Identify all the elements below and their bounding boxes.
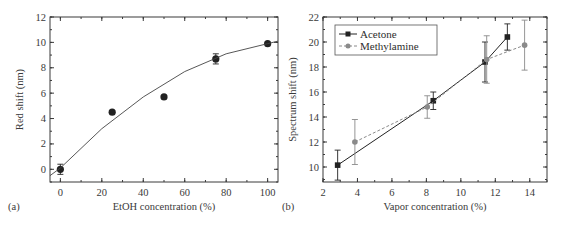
data-point-circle: [352, 139, 358, 145]
y-tick-label: 22: [309, 12, 320, 23]
x-tick-label: 100: [260, 187, 276, 198]
panel-label: (b): [282, 201, 295, 213]
data-point-circle: [424, 104, 430, 110]
legend-label: Methylamine: [360, 40, 419, 52]
legend-marker-circle: [346, 44, 351, 49]
figure: 020406080100024681012EtOH concentration …: [0, 0, 564, 226]
x-tick-label: 4: [355, 187, 361, 198]
legend-label: Acetone: [360, 28, 397, 40]
x-tick-label: 40: [138, 187, 149, 198]
y-tick-label: 14: [309, 112, 320, 123]
data-point-circle: [160, 93, 167, 100]
panel-label: (a): [8, 201, 20, 213]
y-tick-label: 12: [36, 12, 47, 23]
series-line-acetone: [338, 37, 508, 165]
y-axis-title: Red shift (nm): [14, 68, 26, 130]
chart-panel-b: 246810121410121416182022Vapor concentrat…: [282, 12, 547, 214]
y-tick-label: 8: [41, 62, 46, 73]
y-tick-label: 2: [41, 138, 46, 149]
x-tick-label: 0: [58, 187, 63, 198]
data-point-circle: [484, 57, 490, 63]
data-point-square: [505, 34, 511, 40]
data-point-circle: [109, 109, 116, 116]
chart-panel-a: 020406080100024681012EtOH concentration …: [8, 12, 278, 214]
x-axis-title: Vapor concentration (%): [383, 201, 487, 213]
fit-curve: [50, 41, 278, 176]
y-tick-label: 12: [309, 137, 320, 148]
x-tick-label: 10: [456, 187, 467, 198]
series-line-methylamine: [355, 45, 525, 142]
x-tick-label: 20: [97, 187, 108, 198]
y-axis-title: Spectrum shift (nm): [287, 57, 299, 142]
x-tick-label: 2: [320, 187, 325, 198]
x-tick-label: 8: [424, 187, 429, 198]
x-tick-label: 80: [221, 187, 232, 198]
y-tick-label: 4: [41, 113, 47, 124]
data-point-square: [335, 162, 341, 168]
data-point-circle: [522, 42, 528, 48]
data-point-circle: [57, 166, 64, 173]
x-tick-label: 14: [525, 187, 536, 198]
y-tick-label: 0: [41, 164, 46, 175]
y-tick-label: 18: [309, 62, 320, 73]
y-tick-label: 16: [309, 87, 320, 98]
y-tick-label: 6: [41, 88, 46, 99]
x-tick-label: 60: [179, 187, 190, 198]
y-tick-label: 10: [36, 37, 47, 48]
x-tick-label: 12: [490, 187, 501, 198]
x-axis-title: EtOH concentration (%): [113, 201, 216, 213]
y-tick-label: 20: [309, 37, 320, 48]
legend-marker-square: [346, 32, 351, 37]
x-tick-label: 6: [389, 187, 394, 198]
y-tick-label: 10: [309, 162, 320, 173]
